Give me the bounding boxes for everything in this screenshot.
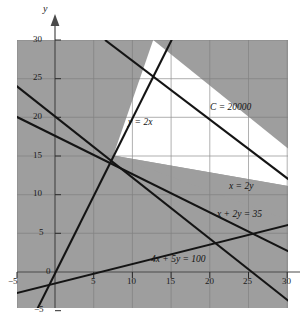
y-axis-label: y xyxy=(43,3,47,14)
y-axis-arrow xyxy=(51,14,60,26)
y-tick-5: 5 xyxy=(39,227,44,237)
y-tick-10: 10 xyxy=(33,188,42,198)
x-tick-minus5: −5 xyxy=(8,276,18,286)
y-tick-minus5: −5 xyxy=(34,304,44,314)
x-tick-30: 30 xyxy=(282,276,291,286)
label-c-equals-20000: C = 20000 xyxy=(210,102,251,112)
y-tick-30: 30 xyxy=(33,34,42,44)
label-x-equals-2y: x = 2y xyxy=(229,181,253,191)
y-tick-20: 20 xyxy=(33,111,42,121)
x-tick-10: 10 xyxy=(127,276,136,286)
label-x-plus-2y-equals-35: x + 2y = 35 xyxy=(217,209,262,219)
x-tick-20: 20 xyxy=(205,276,214,286)
y-tick-15: 15 xyxy=(33,150,42,160)
y-tick-25: 25 xyxy=(33,72,42,82)
linear-programming-figure: 30 25 20 15 10 5 −5 −5 5 10 15 20 25 30 … xyxy=(0,0,306,320)
x-tick-5: 5 xyxy=(91,276,96,286)
label-y-equals-2x: y = 2x xyxy=(128,117,152,127)
origin-label: 0 xyxy=(46,266,51,276)
label-4x-plus-5y-equals-100: 4x + 5y = 100 xyxy=(151,254,206,264)
x-tick-25: 25 xyxy=(243,276,252,286)
x-tick-15: 15 xyxy=(166,276,175,286)
